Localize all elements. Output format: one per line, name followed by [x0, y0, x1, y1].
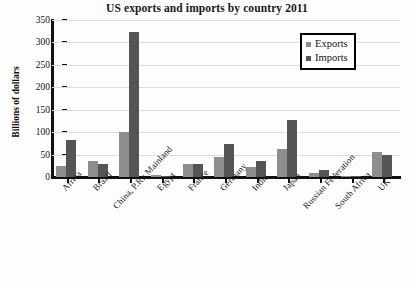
bar-exports: [341, 176, 351, 177]
chart-title: US exports and imports by country 2011: [0, 2, 414, 14]
bar-exports: [277, 149, 287, 177]
bar-exports: [119, 132, 129, 177]
y-tick-label: 0: [22, 172, 50, 182]
bar-group: [368, 20, 400, 177]
y-axis-ticks: 050100150200250300350: [16, 0, 50, 282]
bar-exports: [372, 152, 382, 177]
bar-group: [179, 20, 211, 177]
x-tick-mark: [352, 177, 354, 183]
bar-group: [52, 20, 84, 177]
y-tick-label: 150: [22, 105, 50, 115]
legend-item-exports: Exports: [306, 37, 348, 51]
y-tick-label: 350: [22, 15, 50, 25]
bar-imports: [129, 32, 139, 177]
x-tick-mark: [257, 177, 259, 183]
x-tick-mark: [162, 177, 164, 183]
y-tick-label: 100: [22, 127, 50, 137]
x-tick-mark: [193, 177, 195, 183]
legend-label: Imports: [315, 52, 348, 64]
bar-exports: [309, 173, 319, 177]
x-tick-mark: [98, 177, 100, 183]
bar-exports: [88, 161, 98, 177]
bar-group: [115, 20, 147, 177]
y-tick-label: 200: [22, 82, 50, 92]
x-tick-mark: [288, 177, 290, 183]
legend-item-imports: Imports: [306, 51, 348, 65]
bar-imports: [382, 155, 392, 177]
x-tick-mark: [225, 177, 227, 183]
y-tick-label: 250: [22, 60, 50, 70]
x-tick-mark: [67, 177, 69, 183]
bar-exports: [56, 166, 66, 177]
bar-exports: [183, 164, 193, 177]
legend-swatch-icon: [306, 56, 311, 61]
legend-swatch-icon: [306, 42, 311, 47]
bar-exports: [214, 157, 224, 177]
x-tick-mark: [130, 177, 132, 183]
chart-screenshot: US exports and imports by country 2011 B…: [0, 0, 414, 282]
y-tick-label: 300: [22, 37, 50, 47]
legend-label: Exports: [315, 38, 348, 50]
bar-group: [210, 20, 242, 177]
bar-group: [242, 20, 274, 177]
x-tick-mark: [320, 177, 322, 183]
bar-imports: [287, 120, 297, 177]
bar-exports: [151, 175, 161, 177]
y-tick-label: 50: [22, 150, 50, 160]
chart-legend: ExportsImports: [300, 33, 356, 70]
x-tick-mark: [383, 177, 385, 183]
bar-group: [84, 20, 116, 177]
